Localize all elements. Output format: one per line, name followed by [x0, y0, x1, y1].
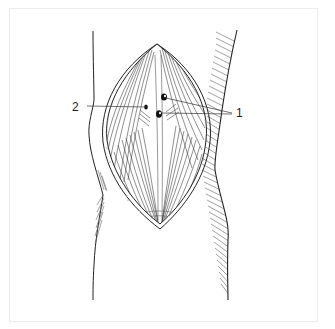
incision	[103, 44, 211, 229]
left-leg-outline	[89, 31, 107, 300]
label-2: 2	[72, 101, 79, 113]
anatomical-illustration	[0, 0, 335, 329]
right-leg-outline	[202, 30, 240, 300]
label-1: 1	[236, 107, 243, 119]
